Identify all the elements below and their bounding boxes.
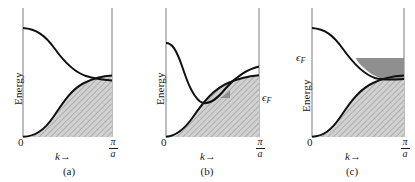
panel-a-caption: (a) bbox=[0, 165, 138, 177]
panel-b-x-origin-tick: 0 bbox=[161, 136, 167, 148]
panel-b-x-max-numerator: π bbox=[253, 137, 267, 148]
panel-c-x-max-numerator: π bbox=[398, 137, 412, 148]
panel-a-conduction-band-curve bbox=[23, 28, 112, 81]
panel-a-x-axis-label: k→ bbox=[55, 150, 70, 162]
panel-b-x-max-tick: π a bbox=[253, 137, 267, 159]
panel-b-x-max-denominator: a bbox=[253, 149, 267, 160]
panel-c-fermi-level-label: ϵF bbox=[296, 51, 305, 65]
panel-b: Energy 0 k→ π a ϵF (b) bbox=[138, 0, 276, 182]
panel-c-x-max-denominator: a bbox=[398, 149, 412, 160]
panel-c-x-origin-tick: 0 bbox=[307, 136, 313, 148]
panel-a-valence-band-fill bbox=[23, 76, 112, 138]
panel-b-valence-band-fill bbox=[166, 75, 259, 137]
panel-c: Energy ϵF 0 k→ π a (c) bbox=[283, 0, 415, 182]
panel-c-fermi-subscript: F bbox=[300, 56, 305, 65]
panel-c-x-max-tick: π a bbox=[398, 137, 412, 159]
panel-a: Energy 0 k→ π a (a) bbox=[0, 0, 138, 182]
panel-b-fermi-subscript: F bbox=[266, 96, 271, 105]
panel-a-y-axis-label: Energy bbox=[12, 72, 24, 105]
panel-a-x-max-numerator: π bbox=[106, 137, 120, 148]
panel-a-x-origin-tick: 0 bbox=[18, 136, 24, 148]
panel-b-caption: (b) bbox=[138, 165, 276, 177]
panel-b-x-axis-label: k→ bbox=[200, 150, 215, 162]
panel-c-caption: (c) bbox=[283, 165, 415, 177]
panel-a-x-max-denominator: a bbox=[106, 149, 120, 160]
panel-c-x-axis-label: k→ bbox=[345, 150, 360, 162]
panel-b-fermi-level-label: ϵF bbox=[262, 91, 271, 105]
panel-b-y-axis-label: Energy bbox=[154, 72, 166, 105]
panel-c-y-axis-label: Energy bbox=[300, 79, 312, 112]
panel-a-x-max-tick: π a bbox=[106, 137, 120, 159]
band-structure-figure: Energy 0 k→ π a (a) bbox=[0, 0, 415, 182]
panel-a-x-axis-arrow-icon: → bbox=[60, 150, 70, 162]
panel-c-x-axis-arrow-icon: → bbox=[350, 150, 360, 162]
panel-b-x-axis-arrow-icon: → bbox=[205, 150, 215, 162]
panel-c-valence-band-fill bbox=[312, 76, 404, 138]
